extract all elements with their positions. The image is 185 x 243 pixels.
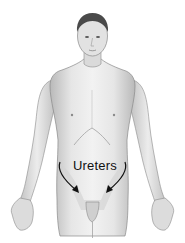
right-hand bbox=[152, 198, 174, 230]
anatomy-figure: Ureters bbox=[0, 0, 185, 243]
left-nipple bbox=[71, 114, 73, 116]
right-arm bbox=[131, 80, 165, 202]
body-illustration bbox=[0, 0, 185, 243]
right-eye bbox=[96, 36, 100, 38]
left-hand bbox=[11, 198, 33, 230]
ureters-label: Ureters bbox=[73, 158, 117, 173]
left-eye bbox=[85, 36, 89, 38]
right-nipple bbox=[113, 114, 115, 116]
left-arm bbox=[20, 80, 54, 202]
